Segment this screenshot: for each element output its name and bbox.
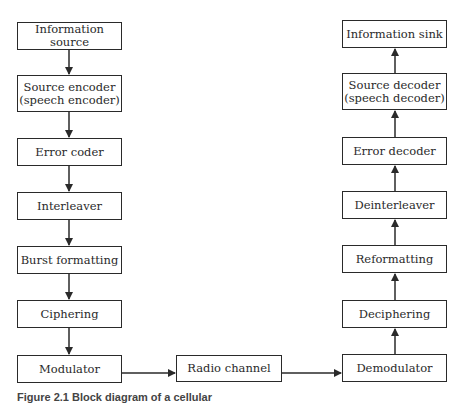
- information-sink-block: Information sink: [342, 20, 447, 48]
- reformatting-block: Reformatting: [342, 245, 447, 273]
- source-encoder-block: Source encoder (speech encoder): [17, 75, 122, 112]
- information-source-block: Information source: [17, 22, 122, 50]
- error-decoder-block: Error decoder: [342, 137, 447, 165]
- demodulator-block: Demodulator: [342, 354, 447, 382]
- ciphering-block: Ciphering: [17, 300, 122, 328]
- deinterleaver-block: Deinterleaver: [342, 191, 447, 219]
- deciphering-block: Deciphering: [342, 300, 447, 328]
- radio-channel-block: Radio channel: [176, 355, 282, 382]
- interleaver-block: Interleaver: [17, 192, 122, 220]
- error-coder-block: Error coder: [17, 138, 122, 166]
- modulator-block: Modulator: [17, 355, 122, 383]
- burst-formatting-block: Burst formatting: [17, 246, 122, 274]
- figure-caption: Figure 2.1 Block diagram of a cellular: [17, 391, 212, 403]
- source-decoder-block: Source decoder (speech decoder): [342, 73, 447, 110]
